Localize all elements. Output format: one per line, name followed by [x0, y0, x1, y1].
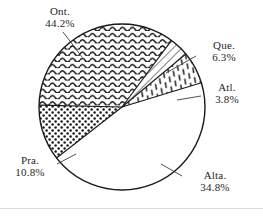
pie-label-pra: Pra. 10.8% [2, 155, 58, 179]
pie-label-alta-percent: 34.8% [183, 182, 247, 194]
pie-label-ont-percent: 44.2% [28, 18, 92, 30]
scan-artifact-line [0, 208, 263, 209]
pie-label-alta: Alta. 34.8% [183, 170, 247, 194]
pie-label-atl-percent: 3.8% [203, 94, 251, 106]
pie-label-pra-percent: 10.8% [2, 167, 58, 179]
pie-label-atl: Atl. 3.8% [203, 82, 251, 106]
pie-chart-figure: Ont. 44.2% Que. 6.3% Atl. 3.8% Alta. 34.… [0, 0, 263, 217]
pie-label-ont: Ont. 44.2% [28, 6, 92, 30]
pie-label-que-percent: 6.3% [198, 52, 250, 64]
pie-label-que: Que. 6.3% [198, 40, 250, 64]
